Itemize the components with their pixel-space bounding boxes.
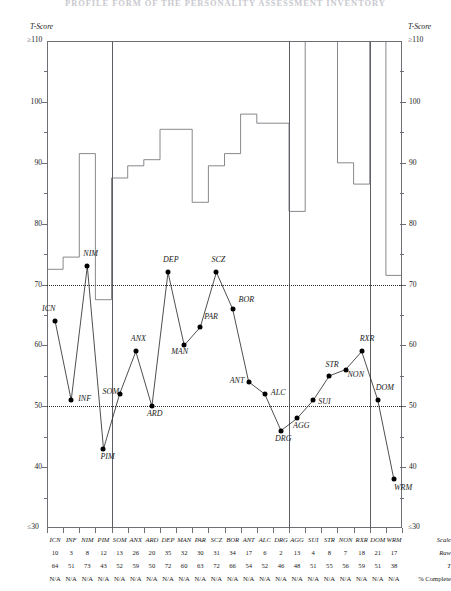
data-point-label-scz: SCZ — [211, 255, 225, 264]
data-point-label-man: MAN — [171, 347, 188, 356]
data-point-sui[interactable] — [311, 398, 316, 403]
data-point-label-drg: DRG — [275, 434, 291, 443]
data-point-wrm[interactable] — [391, 477, 396, 482]
data-point-label-rxr: RXR — [360, 334, 375, 343]
data-point-label-ant: ANT — [230, 376, 245, 385]
data-point-agg[interactable] — [295, 416, 300, 421]
y-axis-tick-label: 100 — [2, 97, 42, 106]
data-point-label-dom: DOM — [376, 383, 394, 392]
y-axis-tick-label: 60 — [409, 340, 449, 349]
x-tick — [354, 528, 355, 533]
data-point-label-par: PAR — [204, 312, 218, 321]
row-header-raw: Raw — [407, 546, 451, 559]
y-axis-tick-label: 40 — [2, 462, 42, 471]
x-tick — [176, 528, 177, 533]
row-header-percent-complete: % Complete — [407, 572, 451, 585]
data-point-label-agg: AGG — [293, 421, 309, 430]
pai-profile-chart: PROFILE FORM OF THE PERSONALITY ASSESSME… — [0, 0, 451, 591]
axis-bottom-label-right: ≤30 — [408, 522, 420, 531]
x-tick — [257, 528, 258, 533]
table-cell: WRM — [384, 533, 404, 546]
x-tick — [192, 528, 193, 533]
data-point-drg[interactable] — [278, 428, 283, 433]
axis-top-label-right: ≥110 — [408, 35, 423, 44]
data-points: ICNINFNIMPIMSOMANXARDDEPMANPARSCZBORANTA… — [47, 41, 402, 528]
data-point-label-non: NON — [348, 370, 364, 379]
data-point-alc[interactable] — [262, 392, 267, 397]
data-point-ant[interactable] — [246, 379, 251, 384]
x-tick — [386, 528, 387, 533]
x-tick — [305, 528, 306, 533]
t-score-label-left: T-Score — [30, 22, 53, 31]
y-axis-tick-label: 40 — [409, 462, 449, 471]
x-tick — [95, 528, 96, 533]
table-row: Scale ICNINFNIMPIMSOMANXARDDEPMANPARSCZB… — [0, 533, 451, 546]
y-axis-tick-label: 60 — [2, 340, 42, 349]
x-tick — [79, 528, 80, 533]
data-point-label-str: STR — [325, 360, 338, 369]
x-tick — [370, 528, 371, 533]
data-point-rxr[interactable] — [359, 349, 364, 354]
table-cell: 17 — [384, 546, 404, 559]
x-tick — [63, 528, 64, 533]
data-point-label-sui: SUI — [318, 397, 330, 406]
x-tick — [160, 528, 161, 533]
table-cell: N/A — [384, 572, 404, 585]
y-axis-tick-label: 90 — [409, 158, 449, 167]
data-point-label-icn: ICN — [42, 304, 55, 313]
data-point-pim[interactable] — [101, 446, 106, 451]
data-point-label-pim: PIM — [100, 452, 114, 461]
table-row: Raw 103812132620353230313417621348718211… — [0, 546, 451, 559]
x-tick — [321, 528, 322, 533]
y-axis-tick-label: 80 — [2, 219, 42, 228]
data-point-label-alc: ALC — [271, 388, 286, 397]
x-tick — [128, 528, 129, 533]
x-tick — [289, 528, 290, 533]
data-point-str[interactable] — [327, 373, 332, 378]
x-tick — [273, 528, 274, 533]
x-tick — [144, 528, 145, 533]
plot-area: 404050506060707080809090100100 ICNINFNIM… — [47, 41, 402, 528]
axis-bottom-label-left: ≤30 — [27, 522, 39, 531]
data-point-label-dep: DEP — [163, 255, 179, 264]
x-tick — [208, 528, 209, 533]
data-point-label-ard: ARD — [147, 409, 163, 418]
t-score-label-right: T-Score — [408, 22, 431, 31]
data-point-label-bor: BOR — [239, 295, 255, 304]
x-tick — [337, 528, 338, 533]
data-point-dom[interactable] — [375, 398, 380, 403]
x-tick — [241, 528, 242, 533]
data-point-anx[interactable] — [133, 349, 138, 354]
table-row: % Complete N/AN/AN/AN/AN/AN/AN/AN/AN/AN/… — [0, 572, 451, 585]
row-header-t: T — [407, 559, 451, 572]
data-point-scz[interactable] — [214, 270, 219, 275]
data-point-nim[interactable] — [85, 264, 90, 269]
page-title: PROFILE FORM OF THE PERSONALITY ASSESSME… — [0, 0, 451, 7]
table-cell: 38 — [384, 559, 404, 572]
data-point-dep[interactable] — [166, 270, 171, 275]
y-axis-tick-label: 70 — [409, 280, 449, 289]
x-tick — [112, 528, 113, 533]
y-axis-tick-label: 50 — [2, 401, 42, 410]
data-point-ard[interactable] — [149, 404, 154, 409]
y-axis-tick-label: 90 — [2, 158, 42, 167]
y-axis-tick-label: 50 — [409, 401, 449, 410]
row-header-scale: Scale — [407, 533, 451, 546]
axis-top-label-left: ≥110 — [27, 35, 42, 44]
y-axis-tick-label: 100 — [409, 97, 449, 106]
score-table: Scale ICNINFNIMPIMSOMANXARDDEPMANPARSCZB… — [0, 533, 451, 585]
data-point-label-nim: NIM — [83, 249, 98, 258]
data-point-par[interactable] — [198, 325, 203, 330]
data-point-label-wrm: WRM — [394, 483, 412, 492]
data-point-label-som: SOM — [103, 387, 119, 396]
data-point-label-anx: ANX — [131, 334, 146, 343]
x-tick — [47, 528, 48, 533]
y-axis-tick-label: 80 — [409, 219, 449, 228]
table-row: T 64517343525950726063726654524648515556… — [0, 559, 451, 572]
data-point-label-inf: INF — [78, 394, 91, 403]
data-point-inf[interactable] — [69, 398, 74, 403]
x-tick — [225, 528, 226, 533]
x-tick — [402, 528, 403, 533]
data-point-icn[interactable] — [53, 319, 58, 324]
data-point-bor[interactable] — [230, 306, 235, 311]
